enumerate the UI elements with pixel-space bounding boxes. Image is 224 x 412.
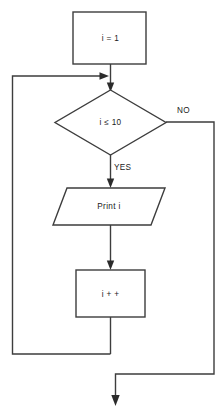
node-init-label: i = 1 bbox=[102, 34, 120, 43]
node-increment-label: i + + bbox=[102, 290, 120, 299]
node-decision-label: i ≤ 10 bbox=[99, 118, 121, 127]
branch-label-yes: YES bbox=[114, 163, 132, 172]
arrowhead-exit bbox=[111, 395, 119, 406]
arrowhead-loop-back bbox=[100, 72, 110, 79]
branch-label-no: NO bbox=[177, 106, 190, 115]
flowchart-diagram: i = 1 i ≤ 10 Print i i + + NO YES bbox=[0, 0, 224, 412]
flowchart-canvas: i = 1 i ≤ 10 Print i i + + NO YES bbox=[0, 0, 224, 412]
arrowhead-into-print bbox=[107, 179, 114, 189]
node-print-label: Print i bbox=[97, 202, 120, 211]
arrowhead-into-increment bbox=[107, 261, 114, 271]
